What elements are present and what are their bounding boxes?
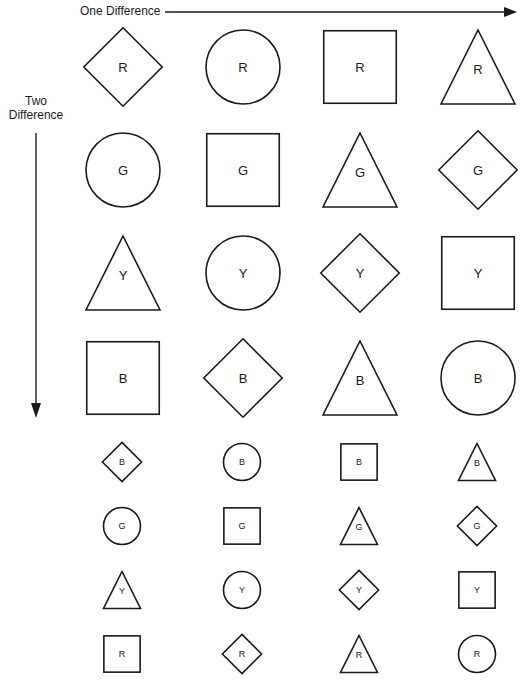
shape-letter: B [119, 457, 125, 467]
diamond-shape: R [222, 634, 261, 673]
shape-diagram: RRRRGGGGYYYYBBBB BBBBGGGGYYYYRRRR [0, 0, 523, 684]
horizontal-arrow [165, 7, 517, 17]
shape-letter: Y [119, 586, 125, 596]
shape-letter: G [473, 521, 480, 531]
shape-letter: B [356, 457, 362, 467]
shape-letter: Y [356, 585, 362, 595]
shape-letter: R [239, 649, 246, 659]
shape-letter: R [119, 649, 126, 659]
triangle-shape: B [323, 341, 397, 415]
shape-letter: R [473, 62, 482, 77]
square-shape: Y [442, 237, 515, 310]
triangle-shape: G [323, 133, 397, 207]
shape-letter: Y [239, 585, 245, 595]
shape-letter: R [238, 60, 247, 75]
circle-shape: G [86, 133, 160, 207]
square-shape: G [207, 134, 280, 207]
circle-shape: R [206, 30, 280, 104]
shape-letter: Y [474, 266, 483, 281]
diamond-shape: B [102, 442, 141, 481]
triangle-shape: Y [104, 572, 141, 609]
diamond-shape: G [457, 506, 496, 545]
square-shape: R [104, 636, 140, 672]
diamond-shape: B [204, 339, 282, 417]
shape-letter: Y [356, 266, 365, 281]
shape-letter: B [119, 371, 128, 386]
triangle-shape: R [341, 636, 378, 673]
square-shape: B [341, 444, 377, 480]
circle-shape: B [441, 341, 515, 415]
vertical-arrow [31, 133, 41, 418]
shape-letter: R [118, 60, 127, 75]
square-shape: G [224, 508, 260, 544]
shape-letter: G [355, 165, 365, 180]
shape-letter: B [474, 458, 480, 468]
shape-letter: G [238, 521, 245, 531]
shape-letter: B [239, 457, 245, 467]
shape-letter: Y [239, 266, 248, 281]
square-shape: B [87, 342, 160, 415]
shape-letter: Y [474, 585, 480, 595]
shape-letter: B [474, 371, 483, 386]
square-shape: R [324, 31, 397, 104]
triangle-shape: B [459, 444, 496, 481]
large-shape-grid: RRRRGGGGYYYYBBBB [84, 28, 517, 417]
arrow-down-icon [31, 403, 41, 418]
shape-letter: G [118, 163, 128, 178]
shape-letter: G [118, 521, 125, 531]
shape-letter: G [238, 163, 248, 178]
shape-letter: R [356, 650, 363, 660]
shape-letter: R [355, 60, 364, 75]
triangle-shape: Y [86, 236, 160, 310]
shape-letter: G [355, 522, 362, 532]
small-shape-grid: BBBBGGGGYYYYRRRR [102, 442, 496, 673]
diamond-shape: Y [321, 234, 399, 312]
diamond-shape: G [439, 131, 517, 209]
circle-shape: Y [206, 236, 280, 310]
arrow-right-icon [504, 7, 517, 17]
triangle-shape: R [441, 30, 515, 104]
circle-shape: Y [224, 572, 261, 609]
shape-letter: Y [119, 268, 128, 283]
diamond-shape: Y [339, 570, 378, 609]
diamond-shape: R [84, 28, 162, 106]
triangle-shape: G [341, 508, 378, 545]
shape-letter: R [474, 649, 481, 659]
square-shape: Y [459, 572, 495, 608]
shape-letter: G [473, 163, 483, 178]
shape-letter: B [356, 373, 365, 388]
circle-shape: B [224, 444, 261, 481]
circle-shape: G [104, 508, 141, 545]
circle-shape: R [459, 636, 496, 673]
shape-letter: B [239, 371, 248, 386]
